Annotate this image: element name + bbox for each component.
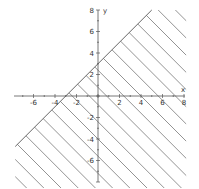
axes <box>14 10 185 182</box>
hatch-line <box>0 66 199 188</box>
y-tick-label: 8 <box>90 7 94 15</box>
x-tick-label: 2 <box>117 99 121 107</box>
shaded-region <box>0 0 199 188</box>
hatch-line <box>0 0 199 109</box>
hatch-line <box>0 186 199 188</box>
y-tick-label: -6 <box>87 157 95 165</box>
hatch-line <box>0 135 199 188</box>
y-tick-label: 6 <box>90 28 95 36</box>
x-tick-label: 6 <box>160 99 165 107</box>
hatch-line <box>0 0 199 75</box>
hatch-line <box>0 0 199 40</box>
hatch-line <box>0 0 199 6</box>
y-axis-label: y <box>103 7 107 15</box>
x-tick-label: -4 <box>52 99 60 107</box>
hatch-line <box>0 169 199 188</box>
x-axis-label: x <box>181 86 185 94</box>
hatch-line <box>0 118 199 189</box>
hatch-line <box>0 0 199 188</box>
x-tick-label: -6 <box>30 99 38 107</box>
tick-labels: -6-4-224688642-2-4-6xy <box>30 7 186 166</box>
x-tick-label: 8 <box>182 99 186 107</box>
hatch-line <box>0 0 199 92</box>
boundary-line <box>15 10 152 147</box>
hatch-line <box>0 0 199 23</box>
y-tick-label: 4 <box>90 50 95 58</box>
inequality-graph: -6-4-224688642-2-4-6xy <box>0 0 199 188</box>
y-tick-label: -4 <box>87 136 95 144</box>
y-tick-label: -2 <box>87 114 94 122</box>
hatch-line <box>0 0 199 161</box>
hatch-line <box>0 0 199 188</box>
y-tick-label: 2 <box>90 71 94 79</box>
hatch-line <box>0 49 199 188</box>
x-tick-label: -2 <box>73 99 80 107</box>
x-tick-label: 4 <box>139 99 144 107</box>
hatch-line <box>0 0 199 57</box>
